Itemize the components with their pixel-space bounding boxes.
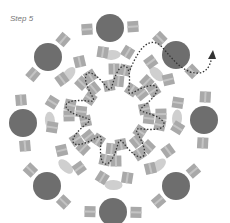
chair-icon	[56, 194, 72, 210]
chair-icon	[25, 67, 41, 83]
table-icon	[162, 172, 190, 200]
chair-icon	[153, 118, 166, 131]
table-icon	[96, 14, 124, 42]
chair-icon	[45, 95, 60, 110]
chair-icon	[19, 140, 31, 152]
chair-icon	[186, 163, 202, 179]
chair-icon	[162, 73, 175, 86]
chair-icon	[81, 24, 93, 36]
chair-icon	[151, 193, 167, 209]
chair-icon	[108, 63, 119, 74]
chair-icon	[184, 64, 200, 80]
chair-icon	[73, 55, 86, 68]
seating-floor-plan	[0, 0, 230, 223]
table-icon	[33, 172, 61, 200]
chair-icon	[79, 114, 92, 127]
table-icon	[34, 43, 62, 71]
chair-icon	[96, 46, 109, 59]
arrow-head-icon	[208, 50, 216, 59]
table-icon	[9, 109, 37, 137]
table-icon	[99, 198, 127, 223]
chair-icon	[155, 108, 166, 119]
chair-icon	[143, 54, 158, 69]
pill-icon	[104, 180, 122, 190]
chair-icon	[121, 172, 134, 185]
chair-icon	[127, 21, 139, 33]
chair-icon	[55, 32, 71, 48]
table-icon	[162, 41, 190, 69]
chair-icon	[55, 144, 68, 157]
chair-icon	[72, 160, 87, 175]
chair-icon	[138, 103, 151, 116]
chair-icon	[63, 110, 74, 121]
table-icon	[190, 106, 218, 134]
chair-icon	[46, 121, 59, 134]
chair-icon	[120, 45, 135, 60]
chair-icon	[130, 207, 141, 218]
chair-icon	[15, 94, 27, 106]
chair-icon	[199, 91, 211, 103]
chair-icon	[118, 64, 131, 77]
chair-icon	[23, 162, 39, 178]
chair-icon	[152, 31, 168, 47]
chair-icon	[110, 155, 121, 166]
chair-icon	[197, 137, 209, 149]
chair-icon	[84, 206, 95, 217]
chair-icon	[160, 143, 175, 158]
chair-icon	[172, 96, 185, 109]
